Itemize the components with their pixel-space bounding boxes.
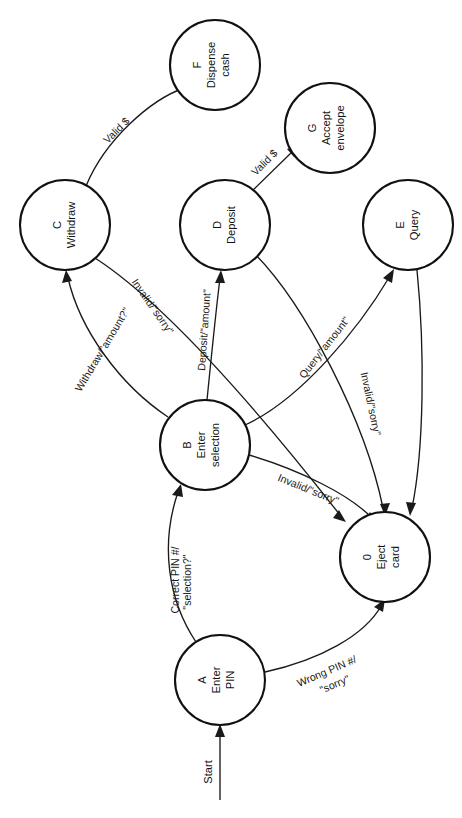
state-label-C-line1: Withdraw (65, 201, 77, 249)
state-label-B-line2: selection (209, 423, 221, 467)
edge-A-to-B: Correct PIN #/ "selection?" (168, 484, 196, 642)
edge-D-to-eject: Invalid/"sorry" (255, 254, 390, 516)
edge-label-B-C: Withdraw/"amount?" (72, 305, 132, 394)
arrowhead-B-D (215, 270, 225, 283)
edge-label-C-F: Valid $ (101, 115, 132, 146)
edge-label-B-D: Deposit/"amount" (195, 289, 213, 372)
state-node-D[interactable]: D Deposit (180, 180, 270, 270)
arrowhead-C-0 (333, 510, 346, 522)
edge-A-to-eject: Wrong PIN #/ "sorry" (265, 599, 385, 695)
arrowhead-A-B (172, 484, 183, 497)
state-label-0-line1: Eject (375, 544, 387, 570)
state-id-B: B (181, 441, 193, 448)
edge-C-to-F: Valid $ (86, 82, 192, 186)
state-label-0-line2: card (389, 546, 401, 568)
state-node-G[interactable]: G Accept envelope (285, 83, 375, 173)
state-diagram-canvas: Start Correct PIN #/ "selection?" Wrong … (0, 0, 462, 818)
edge-label-D-0: Invalid/"sorry" (359, 371, 384, 437)
arrowhead-B-E (383, 269, 394, 283)
state-label-B-line1: Enter (195, 431, 207, 458)
edge-label-C-0: Invalid/"sorry" (130, 276, 177, 336)
state-label-G-line1: Accept (320, 110, 332, 145)
edge-path-E-0 (412, 270, 422, 508)
state-node-A[interactable]: A Enter PIN (175, 635, 265, 725)
edge-label-B-E: Query/"amount" (296, 314, 352, 380)
state-id-0: 0 (361, 554, 373, 560)
edge-label-start: Start (202, 759, 214, 784)
state-node-E[interactable]: E Query (363, 180, 453, 270)
edge-label-D-G: Valid $ (249, 147, 280, 178)
state-label-G-line2: envelope (334, 105, 346, 150)
state-id-D: D (211, 221, 223, 229)
state-id-A: A (196, 676, 208, 684)
arrowhead-B-C (62, 270, 72, 283)
edge-start-to-A: Start (202, 724, 225, 800)
state-label-E-line1: Query (408, 209, 420, 240)
edge-B-to-D: Deposit/"amount" (195, 270, 225, 400)
state-label-D-line1: Deposit (225, 205, 237, 244)
state-id-F: F (191, 61, 203, 68)
state-label-A-line1: Enter (210, 666, 222, 693)
state-node-F[interactable]: F Dispense cash (170, 20, 260, 110)
edge-path-A-0 (265, 606, 381, 672)
state-machine-diagram: Start Correct PIN #/ "selection?" Wrong … (0, 0, 462, 818)
edge-E-to-eject (406, 270, 422, 516)
state-id-C: C (51, 221, 63, 229)
edge-B-to-C: Withdraw/"amount?" (62, 270, 168, 417)
state-id-E: E (394, 221, 406, 228)
state-node-C[interactable]: C Withdraw (20, 180, 110, 270)
edge-B-to-eject: Invalid/"sorry" (249, 455, 378, 524)
state-label-F-line1: Dispense (205, 42, 217, 89)
state-id-G: G (306, 124, 318, 133)
state-node-eject-card[interactable]: 0 Eject card (340, 512, 430, 602)
edge-label-A-B-line1: Correct PIN #/ (169, 546, 181, 613)
arrowhead-E-0 (406, 502, 416, 516)
state-label-F-line2: cash (219, 53, 231, 77)
state-label-A-line2: PIN (224, 671, 236, 690)
state-node-B[interactable]: B Enter selection (160, 400, 250, 490)
edge-label-A-B-line2: "selection?" (181, 554, 193, 609)
